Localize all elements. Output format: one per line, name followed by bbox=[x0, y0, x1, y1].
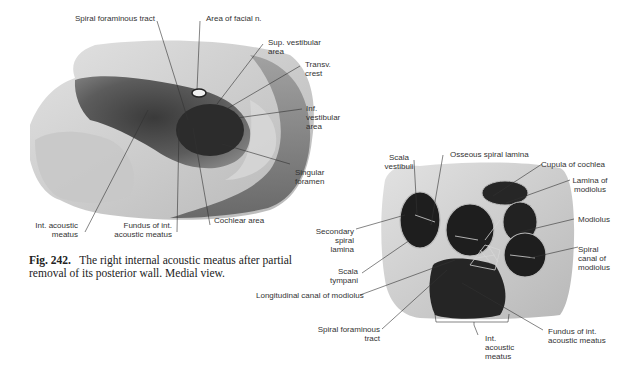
label-int-acoustic-meatus: Int. acoustic meatus bbox=[485, 334, 514, 361]
label-area-of-facial-nerve: Area of facial n. bbox=[206, 14, 262, 23]
label-spiral-foraminous-tract: Spiral foraminous tract bbox=[316, 325, 380, 343]
label-longitudinal-canal-of-modiolus: Longitudinal canal of modiolus bbox=[256, 291, 364, 300]
fig243-illustration bbox=[356, 155, 578, 335]
int-acoustic-meatus-opening bbox=[429, 259, 505, 319]
label-scala-tympani: Scala tympani bbox=[316, 267, 358, 285]
label-spiral-foraminous-tract: Spiral foraminous tract bbox=[75, 14, 155, 23]
label-modiolus: Modiolus bbox=[578, 215, 610, 224]
label-lamina-of-modiolus: Lamina of modiolus bbox=[568, 176, 612, 194]
label-spiral-canal-of-modiolus: Spiral canal of modiolus bbox=[578, 245, 610, 272]
label-singular-foramen: Singular foramen bbox=[295, 168, 324, 186]
label-cupula-of-cochlea: Cupula of cochlea bbox=[541, 160, 605, 169]
label-transverse-crest: Transv. crest bbox=[305, 60, 331, 78]
facial-nerve-opening bbox=[192, 89, 206, 97]
label-fundus-of-int-acoustic-meatus: Fundus of int. acoustic meatus bbox=[112, 221, 172, 239]
label-osseous-spiral-lamina: Osseous spiral lamina bbox=[450, 150, 529, 159]
label-secondary-spiral-lamina: Secondary spiral lamina bbox=[308, 227, 354, 254]
label-cochlear-area: Cochlear area bbox=[214, 216, 264, 225]
label-inf-vestibular-area: Inf. vestibular area bbox=[306, 104, 340, 131]
label-fundus-of-int-acoustic-meatus: Fundus of int. acoustic meatus bbox=[548, 327, 606, 345]
label-int-acoustic-meatus: Int. acoustic meatus bbox=[30, 221, 78, 239]
label-scala-vestibuli: Scala vestibuli bbox=[382, 153, 416, 171]
figure-caption: Fig. 242. The right internal acoustic me… bbox=[29, 254, 313, 280]
label-sup-vestibular-area: Sup. vestibular area bbox=[268, 38, 321, 56]
caption-number: Fig. 242. bbox=[29, 254, 71, 266]
